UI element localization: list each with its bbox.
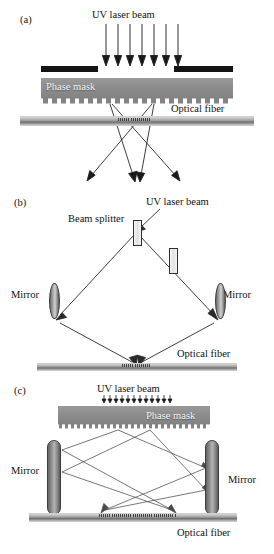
phase-mask-label-a: Phase mask [46,81,95,92]
aperture-bar-left-a [41,66,98,72]
uv-incident-arrows-a [0,0,274,70]
uv-incident-arrows-c [0,394,274,406]
mirror-right-c [205,440,219,515]
crossing-beams-c [0,428,274,523]
diffracted-beams-a [0,100,274,190]
interferometer-beam-path-b [0,190,274,375]
fbg-fabrication-figure: (a) UV laser beam Phase mask [0,0,274,554]
optical-fiber-label-c: Optical fiber [177,527,230,539]
fiber-grating-a [118,118,150,121]
mirror-left-c [47,440,61,515]
fiber-grating-b [122,364,150,367]
beam-splitter-b [133,220,142,246]
fiber-grating-c [99,514,177,517]
aperture-bar-right-a [174,66,233,72]
uv-laser-beam-label-c: UV laser beam [97,383,160,395]
phase-mask-label-c: Phase mask [146,410,195,421]
compensator-plate-b [169,248,178,274]
mirror-right-b [215,283,226,319]
mirror-left-b [49,283,60,319]
